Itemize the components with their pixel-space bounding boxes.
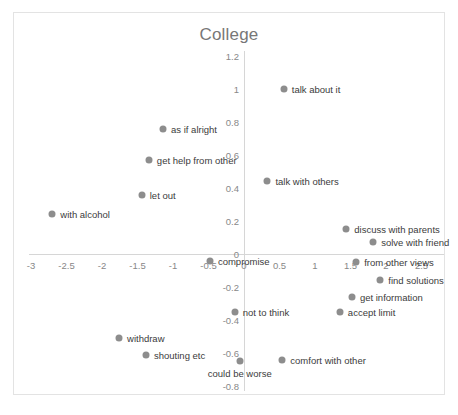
plot-area: -0.8-0.6-0.4-0.200.20.40.60.811.2 -3-2.5… — [14, 13, 444, 394]
scatter-point-label: from other views — [364, 257, 434, 268]
scatter-point-marker[interactable] — [264, 178, 271, 185]
y-axis-line — [244, 51, 245, 391]
x-tick-label: -3 — [27, 260, 35, 271]
scatter-point-label: talk about it — [292, 84, 341, 95]
scatter-point-label: find solutions — [388, 275, 443, 286]
chart-frame: College -0.8-0.6-0.4-0.200.20.40.60.811.… — [13, 12, 445, 395]
y-tick-label: -0.2 — [14, 282, 239, 293]
x-tick-label: 0.5 — [273, 260, 286, 271]
scatter-point-marker[interactable] — [145, 156, 152, 163]
scatter-point-label: talk with others — [275, 176, 338, 187]
scatter-point-marker[interactable] — [280, 86, 287, 93]
scatter-point-label: let out — [150, 189, 176, 200]
scatter-point-label: comfort with other — [290, 354, 366, 365]
scatter-point-label: shouting etc — [154, 349, 205, 360]
scatter-point-label: as if alright — [171, 123, 217, 134]
scatter-point-marker[interactable] — [336, 308, 343, 315]
y-tick-label: 0.4 — [14, 183, 239, 194]
scatter-point-label: get help from other — [157, 154, 237, 165]
y-tick-label: 0.2 — [14, 216, 239, 227]
scatter-point-marker[interactable] — [348, 293, 355, 300]
y-tick-label: 1 — [14, 84, 239, 95]
x-tick-label: 1 — [312, 260, 317, 271]
x-tick-label: -1.5 — [129, 260, 145, 271]
scatter-point-label: solve with friend — [381, 237, 449, 248]
y-tick-label: 0 — [14, 249, 239, 260]
scatter-point-marker[interactable] — [49, 211, 56, 218]
scatter-point-label: get information — [360, 291, 423, 302]
scatter-point-label: compromise — [218, 255, 270, 266]
x-tick-label: -1 — [169, 260, 177, 271]
scatter-point-marker[interactable] — [370, 239, 377, 246]
scatter-point-marker[interactable] — [236, 358, 243, 365]
scatter-point-label: discuss with parents — [354, 224, 440, 235]
scatter-point-label: with alcohol — [60, 209, 110, 220]
scatter-point-label: withdraw — [127, 333, 165, 344]
scatter-point-marker[interactable] — [160, 125, 167, 132]
scatter-point-marker[interactable] — [231, 308, 238, 315]
y-tick-label: -0.8 — [14, 381, 239, 392]
y-tick-label: 1.2 — [14, 51, 239, 62]
x-tick-label: -2 — [98, 260, 106, 271]
scatter-point-label: accept limit — [348, 306, 396, 317]
scatter-point-marker[interactable] — [377, 277, 384, 284]
scatter-point-marker[interactable] — [279, 356, 286, 363]
scatter-point-label: not to think — [243, 306, 289, 317]
y-tick-label: -0.6 — [14, 348, 239, 359]
y-tick-label: -0.4 — [14, 315, 239, 326]
scatter-point-marker[interactable] — [116, 335, 123, 342]
scatter-point-marker[interactable] — [206, 257, 213, 264]
scatter-point-marker[interactable] — [138, 191, 145, 198]
scatter-point-marker[interactable] — [353, 259, 360, 266]
scatter-point-marker[interactable] — [143, 351, 150, 358]
scatter-point-marker[interactable] — [343, 226, 350, 233]
scatter-point-label: could be worse — [208, 368, 272, 379]
x-tick-label: -2.5 — [58, 260, 74, 271]
screenshot-root: College -0.8-0.6-0.4-0.200.20.40.60.811.… — [0, 0, 458, 415]
